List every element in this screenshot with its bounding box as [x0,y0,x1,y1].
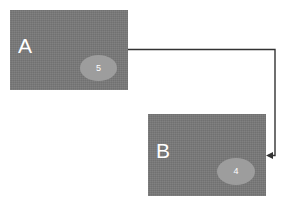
node-a[interactable]: A 5 [10,10,128,90]
node-b-label: B [156,140,170,161]
node-b-port[interactable]: 4 [217,158,255,185]
node-b[interactable]: B 4 [148,114,266,196]
node-b-port-label: 4 [233,167,238,176]
node-a-port[interactable]: 5 [80,55,117,81]
node-a-port-label: 5 [96,64,101,73]
diagram-canvas: A 5 B 4 [0,0,285,202]
node-a-label: A [18,35,32,56]
arrow-head-icon [266,152,273,159]
